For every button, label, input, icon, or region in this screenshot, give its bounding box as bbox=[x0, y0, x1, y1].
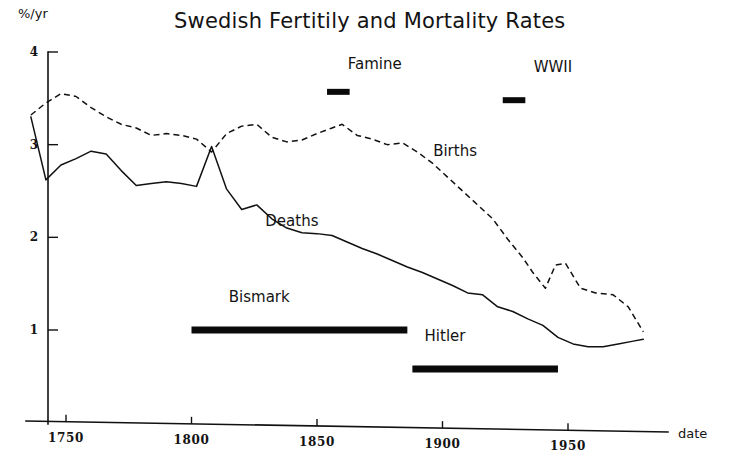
x-tick-label: 1800 bbox=[174, 433, 210, 447]
series-label-group: BirthsDeaths bbox=[265, 142, 477, 230]
series-line-deaths bbox=[31, 117, 643, 347]
y-tick-group: 1234 bbox=[30, 45, 58, 337]
y-axis: 1234 bbox=[30, 45, 58, 424]
event-label-famine: Famine bbox=[348, 55, 402, 73]
series-label-births: Births bbox=[433, 142, 477, 160]
x-tick-label: 1950 bbox=[550, 439, 586, 453]
x-tick-group: 17501800185019001950 bbox=[48, 415, 586, 454]
event-label-wwii: WWII bbox=[534, 58, 573, 76]
annotation-group: FamineWWIIBismarkHitler bbox=[192, 55, 573, 369]
series-label-deaths: Deaths bbox=[265, 212, 318, 230]
fertility-mortality-chart: Swedish Fertitily and Mortality Rates %/… bbox=[0, 0, 729, 473]
event-label-bismark: Bismark bbox=[229, 288, 290, 306]
chart-container: Swedish Fertitily and Mortality Rates %/… bbox=[0, 0, 729, 473]
x-tick-label: 1900 bbox=[425, 437, 461, 451]
y-tick-label: 2 bbox=[30, 230, 38, 244]
x-tick-label: 1850 bbox=[299, 435, 335, 449]
x-axis-name-label: date bbox=[678, 426, 707, 441]
y-tick-label: 4 bbox=[30, 45, 38, 59]
x-axis: 17501800185019001950 bbox=[26, 415, 668, 454]
series-group bbox=[31, 94, 643, 347]
series-line-births bbox=[31, 94, 643, 332]
event-label-hitler: Hitler bbox=[425, 327, 467, 345]
y-tick-label: 1 bbox=[30, 323, 38, 337]
y-axis-unit-label: %/yr bbox=[18, 6, 48, 21]
chart-title: Swedish Fertitily and Mortality Rates bbox=[174, 9, 565, 33]
x-tick-label: 1750 bbox=[48, 431, 84, 445]
